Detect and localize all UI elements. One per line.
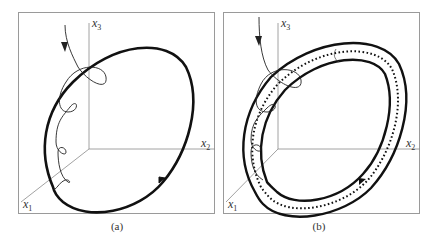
x2-label: x2 bbox=[405, 136, 415, 152]
phase-space-plot-b: x3 x2 x1 bbox=[223, 12, 420, 214]
caption-a: (a) bbox=[97, 220, 137, 232]
x1-label: x1 bbox=[227, 197, 237, 213]
trajectory-start-arrow-icon bbox=[61, 42, 68, 52]
panel-b: x3 x2 x1 (b) bbox=[223, 12, 420, 214]
caption-b: (b) bbox=[299, 220, 339, 232]
x1-axis bbox=[226, 149, 278, 202]
limit-cycle-orbit bbox=[45, 48, 193, 213]
x3-label: x3 bbox=[280, 16, 290, 32]
x3-label: x3 bbox=[91, 16, 101, 32]
panel-a: x3 x2 x1 (a) bbox=[18, 12, 215, 214]
frame bbox=[19, 13, 215, 214]
x1-label: x1 bbox=[22, 197, 32, 213]
tube-inner-boundary bbox=[261, 60, 390, 201]
transient-trajectory bbox=[54, 25, 106, 190]
phase-space-plot-a: x3 x2 x1 bbox=[18, 12, 215, 214]
orbit-direction-arrow-icon bbox=[359, 178, 366, 185]
x2-label: x2 bbox=[200, 136, 210, 152]
